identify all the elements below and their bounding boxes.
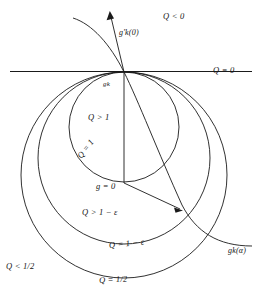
arrow-gk-prime-zero (111, 15, 125, 72)
label-g-equal-0: g = 0 (96, 182, 116, 191)
label-q-greater-1: Q > 1 (88, 113, 109, 122)
diagram-canvas (0, 0, 276, 302)
label-q-equal-half: Q = 1/2 (99, 275, 128, 285)
label-gk: gk (103, 81, 110, 88)
label-q-less-half: Q < 1/2 (6, 262, 34, 271)
label-q-zero: Q = 0 (213, 66, 234, 75)
label-q-negative: Q < 0 (163, 12, 184, 21)
label-q-greater-1-minus-eps: Q > 1 − ε (82, 208, 118, 217)
label-gk-alpha: gk(α) (228, 247, 246, 255)
arrow-gk-prime-zero-head (107, 11, 114, 20)
label-gk-prime-zero: g'k(0) (119, 29, 139, 37)
figure-root: Q < 0 g'k(0) Q = 0 gk Q > 1 Q = 1 g = 0 … (0, 0, 276, 302)
arrow-gk-direction (124, 183, 180, 209)
